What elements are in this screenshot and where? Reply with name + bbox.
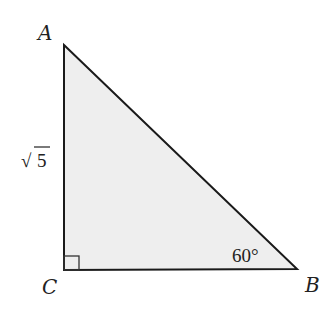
radical-sign: √: [21, 150, 32, 171]
vertex-label-b: B: [304, 273, 320, 297]
triangle-abc: [64, 45, 297, 270]
vertex-label-c: C: [42, 275, 57, 299]
vertex-label-a: A: [36, 21, 52, 45]
triangle-diagram: A C B √ 5 60°: [0, 0, 327, 310]
angle-label-b: 60°: [232, 245, 259, 266]
side-label-ac: √ 5: [21, 147, 50, 171]
radicand: 5: [37, 150, 47, 171]
